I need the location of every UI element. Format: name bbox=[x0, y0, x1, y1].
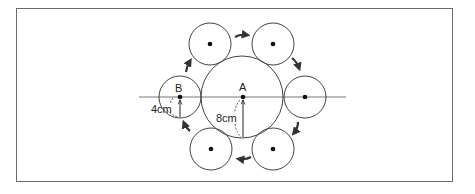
label-radius-big: 8cm bbox=[216, 112, 237, 124]
center-dot-top-left bbox=[208, 42, 213, 47]
label-a: A bbox=[239, 81, 247, 93]
center-dot-b bbox=[178, 95, 183, 100]
center-dot-top-right bbox=[271, 42, 276, 47]
center-dot-right bbox=[303, 95, 308, 100]
rotation-arrow-icon bbox=[239, 157, 251, 159]
rotation-arrow-icon bbox=[235, 35, 247, 37]
label-radius-small: 4cm bbox=[151, 103, 172, 115]
center-dot-bottom-right bbox=[271, 147, 276, 152]
label-b: B bbox=[175, 82, 182, 94]
rotation-arrow-icon bbox=[186, 61, 190, 72]
rotation-arrow-icon bbox=[292, 58, 299, 68]
rotation-arrow-icon bbox=[184, 123, 190, 131]
radius-a-leader bbox=[235, 124, 241, 137]
gear-diagram: B A 4cm 8cm bbox=[0, 0, 475, 194]
center-dot-bottom-left bbox=[209, 147, 214, 152]
rotation-arrow-icon bbox=[294, 122, 298, 133]
radius-a-leader bbox=[235, 100, 240, 112]
center-dot-a bbox=[241, 95, 246, 100]
